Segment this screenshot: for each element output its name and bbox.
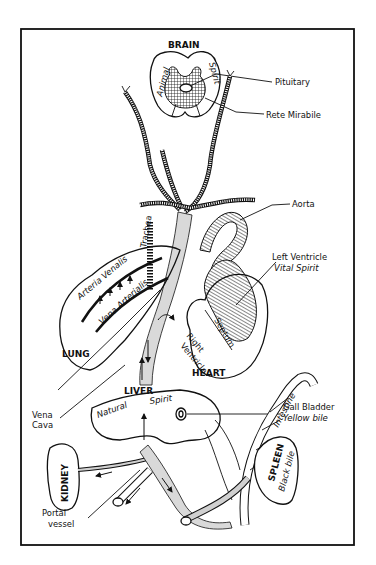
pituitary-gland [180,84,192,92]
label-vena-cava-2: Cava [32,420,53,430]
label-brain: BRAIN [168,40,200,50]
label-aorta: Aorta [292,199,315,209]
label-portal-vessel-2: vessel [48,519,74,529]
label-pituitary: Pituitary [275,77,310,87]
label-vena-cava-1: Vena [32,410,53,420]
label-left-ventricle: Left Ventricle [272,252,327,262]
leader-aorta [240,204,290,220]
label-liver: LIVER [124,386,153,396]
label-rete-mirabile: Rete Mirabile [266,110,321,120]
label-portal-vessel-1: Portal [42,508,66,518]
gall-bladder-inner [179,411,183,417]
portal-vessels [78,445,232,529]
label-lung: LUNG [62,349,90,359]
splenic-vessel [181,478,248,525]
label-kidney: KIDNEY [60,464,70,502]
label-vital-spirit: Vital Spirit [274,263,319,273]
label-heart: HEART [192,368,226,378]
galenic-physiology-diagram: BRAIN Animal Spirit Pituitary Rete Mirab… [0,0,376,565]
label-yellow-bile: Yellow bile [283,413,328,423]
leader-portal-vessel [88,470,140,518]
